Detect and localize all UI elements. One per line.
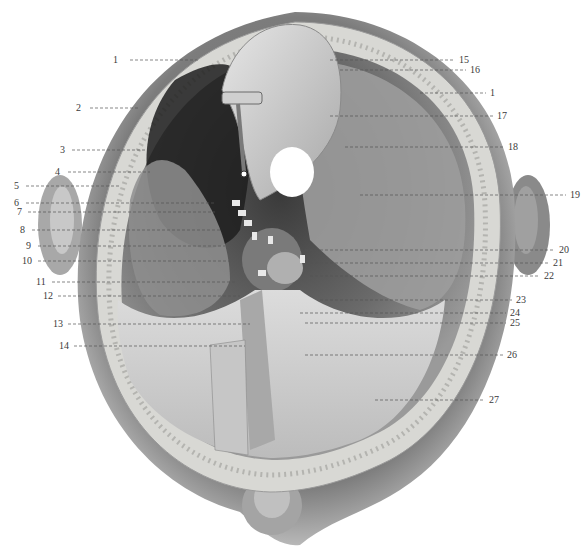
label-19: 19 (570, 190, 580, 200)
label-27: 27 (489, 395, 499, 405)
label-12: 12 (43, 291, 53, 301)
label-8: 8 (20, 225, 25, 235)
anatomical-illustration (0, 0, 588, 553)
label-21: 21 (553, 258, 563, 268)
label-10: 10 (22, 256, 32, 266)
sagittal-sinus-cut (222, 92, 262, 104)
tentorial-notch (270, 147, 314, 197)
label-9: 9 (26, 241, 31, 251)
label-3: 3 (60, 145, 65, 155)
label-4: 4 (55, 167, 60, 177)
label-13: 13 (53, 319, 63, 329)
left-ear (38, 175, 82, 275)
label-2: 2 (76, 103, 81, 113)
label-22: 22 (544, 271, 554, 281)
label-15: 15 (459, 55, 469, 65)
label-17: 17 (497, 111, 507, 121)
straight-sinus (210, 340, 248, 455)
label-11: 11 (36, 277, 46, 287)
label-23: 23 (516, 295, 526, 305)
label-25: 25 (510, 318, 520, 328)
label-26: 26 (507, 350, 517, 360)
inferior-sagittal-sinus (241, 171, 247, 177)
label-16: 16 (470, 65, 480, 75)
label-18: 18 (508, 142, 518, 152)
label-14: 14 (59, 341, 69, 351)
label-1-left: 1 (113, 55, 118, 65)
label-1-right: 1 (490, 88, 495, 98)
label-5: 5 (14, 181, 19, 191)
label-7: 7 (17, 207, 22, 217)
label-20: 20 (559, 245, 569, 255)
